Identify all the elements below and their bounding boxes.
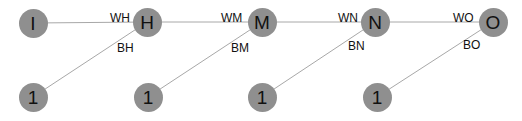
network-diagram: IHMNO1111 WHWMWNWOBHBMBNBO (0, 0, 522, 121)
edge-b4-O (377, 22, 493, 97)
bias-node: 1 (248, 83, 277, 112)
node-i: I (19, 9, 48, 38)
node-label: 1 (372, 88, 383, 107)
node-n: N (361, 8, 390, 37)
node-label: I (30, 14, 35, 33)
edge-b3-N (262, 22, 375, 97)
node-label: N (368, 13, 382, 32)
edge-b1-H (33, 22, 147, 97)
edge-label: WH (110, 12, 130, 24)
node-label: 1 (143, 88, 154, 107)
edge-label: BO (463, 39, 480, 51)
edge-label: BH (117, 42, 134, 54)
node-h: H (133, 8, 162, 37)
edge-label: WO (453, 12, 474, 24)
edge-label: BM (231, 42, 249, 54)
bias-node: 1 (19, 83, 48, 112)
node-m: M (248, 8, 277, 37)
edge-label: WM (221, 12, 242, 24)
bias-node: 1 (134, 83, 163, 112)
node-label: H (140, 13, 154, 32)
edge-label: BN (348, 40, 365, 52)
edge-b2-M (148, 22, 262, 97)
node-label: 1 (28, 88, 39, 107)
node-o: O (479, 8, 508, 37)
edge-label: WN (338, 12, 358, 24)
bias-node: 1 (363, 83, 392, 112)
node-label: O (486, 13, 501, 32)
node-label: M (254, 13, 270, 32)
node-label: 1 (257, 88, 268, 107)
